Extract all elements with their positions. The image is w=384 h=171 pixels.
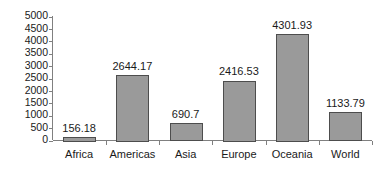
x-axis-category-labels: AfricaAmericasAsiaEuropeOceaniaWorld [65,148,360,160]
y-axis-tick-label: 4500 [25,22,49,34]
chart-canvas: 0500100015002000250030003500400045005000… [0,0,384,171]
y-axis-tick-label: 3500 [25,46,49,58]
y-axis-tick-label: 2500 [25,71,49,83]
y-axis-tick-label: 1500 [25,96,49,108]
bar-chart: 0500100015002000250030003500400045005000… [0,0,384,171]
y-axis-tick-label: 5000 [25,9,49,21]
y-axis-tick-labels: 0500100015002000250030003500400045005000 [25,9,49,145]
bar-series [64,35,362,142]
y-axis-tick-label: 3000 [25,59,49,71]
y-axis-tick-label: 1000 [25,108,49,120]
y-axis-tick-label: 0 [42,133,48,145]
bar-value-label: 690.7 [172,108,200,120]
bar [224,82,256,142]
bar-value-label: 2644.17 [112,60,152,72]
bar-value-label: 1133.79 [326,97,365,109]
x-axis-category-label: Africa [65,148,94,160]
bar-value-label: 156.18 [62,122,96,134]
x-axis-category-label: Americas [109,148,155,160]
x-axis-category-label: Asia [175,148,197,160]
y-axis-tick-label: 4000 [25,34,49,46]
x-axis-category-label: Oceania [272,148,314,160]
bar [277,35,309,142]
bar-value-labels: 156.182644.17690.72416.534301.931133.79 [62,19,365,134]
bar-value-label: 2416.53 [219,65,259,77]
bar [117,76,149,142]
x-axis-category-label: World [331,148,360,160]
bar [64,138,96,142]
y-axis-tick-marks [49,17,53,141]
y-axis-tick-label: 2000 [25,84,49,96]
x-axis-category-label: Europe [221,148,256,160]
bar [330,113,362,141]
y-axis-tick-label: 500 [30,121,48,133]
bar-value-label: 4301.93 [272,19,312,31]
bar [171,124,203,141]
